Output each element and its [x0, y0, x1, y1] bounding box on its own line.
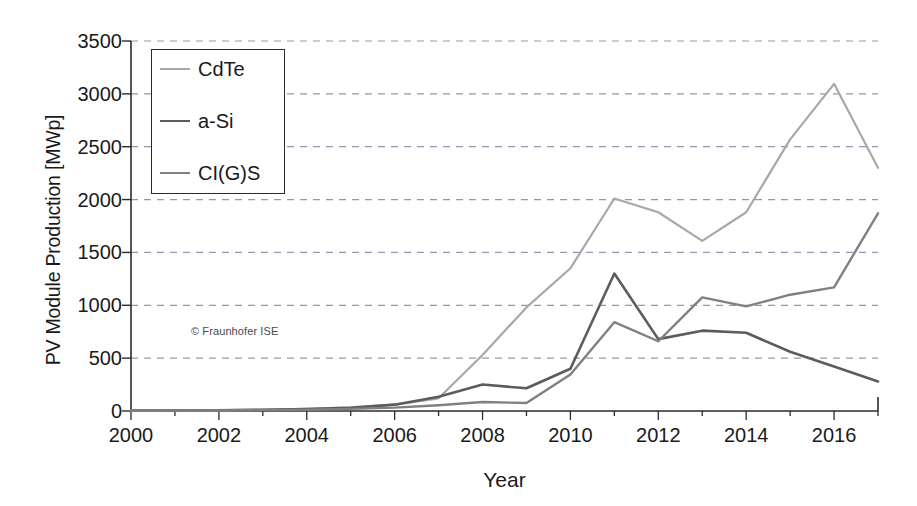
y-tick-label-2000: 2000 [36, 188, 122, 211]
x-tick-label-2012: 2012 [636, 424, 681, 447]
y-tick-label-3000: 3000 [36, 82, 122, 105]
legend-item-2[interactable]: CI(G)S [160, 162, 260, 184]
series-line-ci-g-s [131, 213, 878, 410]
legend-label-0: CdTe [198, 59, 245, 79]
legend-item-0[interactable]: CdTe [160, 58, 245, 80]
y-tick-label-0: 0 [36, 400, 122, 423]
y-tick-label-1000: 1000 [36, 294, 122, 317]
chart-figure: PV Module Production [MWp] 0500100015002… [0, 0, 917, 506]
series-line-a-si [131, 274, 878, 411]
x-axis-title: Year [131, 468, 878, 492]
legend-swatch-0 [160, 68, 190, 70]
x-tick-label-2016: 2016 [812, 424, 857, 447]
legend-label-1: a-Si [198, 111, 234, 131]
y-tick-label-3500: 3500 [36, 30, 122, 53]
legend-swatch-2 [160, 172, 190, 174]
legend-swatch-1 [160, 120, 190, 122]
x-tick-label-2014: 2014 [724, 424, 769, 447]
y-tick-marks-group [122, 41, 131, 411]
x-tick-label-2008: 2008 [460, 424, 505, 447]
chart-legend: CdTe a-Si CI(G)S [151, 49, 285, 194]
x-tick-marks-group [131, 411, 878, 420]
x-tick-label-2010: 2010 [548, 424, 593, 447]
x-tick-label-2004: 2004 [285, 424, 330, 447]
y-tick-label-2500: 2500 [36, 135, 122, 158]
x-tick-label-2000: 2000 [109, 424, 154, 447]
legend-item-1[interactable]: a-Si [160, 110, 234, 132]
legend-label-2: CI(G)S [198, 163, 260, 183]
y-tick-label-1500: 1500 [36, 241, 122, 264]
copyright-watermark: © Fraunhofer ISE [191, 325, 278, 337]
y-axis-title-container: PV Module Production [MWp] [2, 20, 36, 420]
x-tick-label-2006: 2006 [372, 424, 417, 447]
y-tick-label-500: 500 [36, 347, 122, 370]
x-tick-label-2002: 2002 [197, 424, 242, 447]
